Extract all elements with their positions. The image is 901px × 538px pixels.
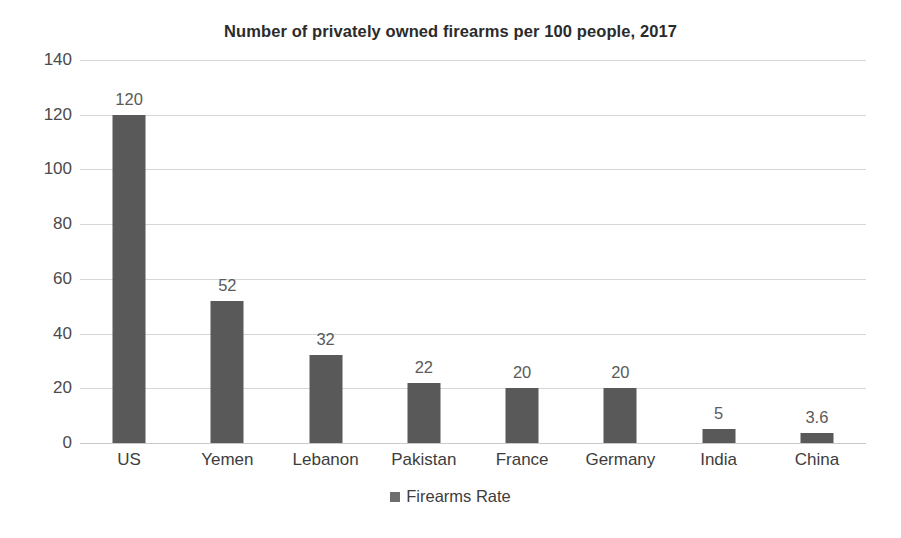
bar[interactable] — [309, 355, 342, 443]
x-axis-tick-label: China — [795, 450, 839, 470]
legend-swatch-icon — [390, 492, 400, 502]
chart-title: Number of privately owned firearms per 1… — [0, 22, 901, 41]
y-axis-tick-label: 60 — [0, 269, 72, 289]
bar-group: 22 — [375, 60, 473, 443]
bar[interactable] — [407, 383, 440, 443]
bar-group: 52 — [178, 60, 276, 443]
bar[interactable] — [211, 301, 244, 443]
legend-entry-firearms-rate[interactable]: Firearms Rate — [390, 487, 511, 506]
gridline — [80, 443, 866, 444]
y-axis-tick-label: 20 — [0, 378, 72, 398]
bar[interactable] — [800, 433, 833, 443]
x-axis-tick-label: Germany — [585, 450, 655, 470]
bar-value-label: 5 — [714, 404, 723, 423]
y-axis-tick-label: 120 — [0, 105, 72, 125]
bar-value-label: 32 — [316, 330, 334, 349]
bar-group: 32 — [277, 60, 375, 443]
bar-value-label: 22 — [415, 358, 433, 377]
bar-value-label: 3.6 — [805, 408, 828, 427]
y-axis-tick-label: 140 — [0, 50, 72, 70]
bar-group: 20 — [473, 60, 571, 443]
x-axis-tick-label: Pakistan — [391, 450, 456, 470]
y-axis-tick-label: 100 — [0, 159, 72, 179]
bar[interactable] — [604, 388, 637, 443]
x-axis-tick-label: France — [496, 450, 549, 470]
bar-value-label: 120 — [115, 90, 143, 109]
legend-label: Firearms Rate — [406, 487, 511, 506]
bars-layer: 120523222202053.6 — [80, 60, 866, 443]
bar-value-label: 20 — [611, 363, 629, 382]
bar-chart: Number of privately owned firearms per 1… — [0, 0, 901, 538]
bar-group: 120 — [80, 60, 178, 443]
bar[interactable] — [113, 115, 146, 443]
y-axis: 020406080100120140 — [0, 60, 72, 443]
bar-group: 5 — [670, 60, 768, 443]
bar-value-label: 52 — [218, 276, 236, 295]
x-axis-tick-label: Yemen — [201, 450, 253, 470]
y-axis-tick-label: 0 — [0, 433, 72, 453]
bar-group: 20 — [571, 60, 669, 443]
chart-legend: Firearms Rate — [0, 487, 901, 506]
bar[interactable] — [702, 429, 735, 443]
x-axis: USYemenLebanonPakistanFranceGermanyIndia… — [80, 450, 866, 476]
x-axis-tick-label: India — [700, 450, 737, 470]
bar-group: 3.6 — [768, 60, 866, 443]
x-axis-tick-label: US — [117, 450, 141, 470]
x-axis-tick-label: Lebanon — [293, 450, 359, 470]
y-axis-tick-label: 40 — [0, 324, 72, 344]
bar-value-label: 20 — [513, 363, 531, 382]
y-axis-tick-label: 80 — [0, 214, 72, 234]
bar[interactable] — [506, 388, 539, 443]
